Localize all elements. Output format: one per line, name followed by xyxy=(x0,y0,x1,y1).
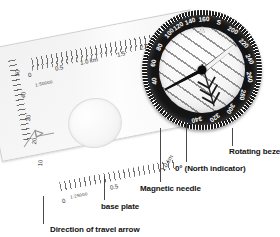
figure-canvas: 0 0.5 1.0 km 1.5 2.0 1:50000 50 40 30 20… xyxy=(0,0,280,237)
compass-capsule: 100 120 140 160 S 200 220 240 260 280 30… xyxy=(142,10,262,130)
north-indicator-mark xyxy=(199,26,205,33)
leader-north-indicator xyxy=(186,124,187,162)
left-ruler-tick-10: 10 xyxy=(37,159,44,166)
bezel-label-60: 60 xyxy=(149,59,157,67)
left-ruler-tick-50: 50 xyxy=(14,69,21,76)
label-travel-arrow: Direction of travel arrow xyxy=(50,225,140,234)
leader-base-plate xyxy=(104,176,105,200)
compass-capsule-face xyxy=(159,27,245,113)
label-rotating-bezel: Rotating bezel xyxy=(229,147,280,156)
label-base-plate: base plate xyxy=(101,202,139,211)
label-north-indicator: 0° (North indicator) xyxy=(175,164,246,173)
bottom-ruler-tick-05: 0.5 xyxy=(110,183,119,190)
bottom-ruler-scale-text: 1:25000 xyxy=(70,191,88,199)
leader-rotating-bezel xyxy=(232,128,233,146)
bezel-label-40: 40 xyxy=(150,77,158,85)
left-ruler-tick-40: 40 xyxy=(20,91,27,98)
leader-travel-arrow xyxy=(43,196,44,224)
bottom-ruler-tick-0: 0 xyxy=(61,198,65,205)
needle-pivot xyxy=(198,66,207,75)
label-magnetic-needle: Magnetic needle xyxy=(140,184,201,193)
bezel-label-160: 160 xyxy=(198,15,209,23)
leader-magnetic-needle xyxy=(160,128,161,182)
left-ruler-tick-30: 30 xyxy=(25,114,32,121)
